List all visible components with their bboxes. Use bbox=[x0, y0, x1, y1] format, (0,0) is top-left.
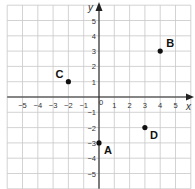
x-tick-label: 4 bbox=[158, 101, 162, 110]
x-tick-label: 5 bbox=[173, 101, 177, 110]
point-label-a: A bbox=[104, 144, 112, 156]
y-tick-label: 4 bbox=[92, 32, 96, 41]
point-d bbox=[142, 125, 147, 130]
y-axis-arrow-icon bbox=[96, 2, 103, 11]
x-axis-label: x bbox=[185, 101, 192, 112]
x-tick-label: −2 bbox=[64, 101, 73, 110]
x-tick-label: 1 bbox=[112, 101, 116, 110]
y-tick-label: −1 bbox=[87, 108, 96, 117]
axes: xy bbox=[7, 2, 194, 189]
y-tick-label: 2 bbox=[92, 62, 96, 71]
y-tick-label: 5 bbox=[92, 17, 96, 26]
y-tick-label: 3 bbox=[92, 47, 96, 56]
coordinate-plane: xy −5−4−3−2−1012345−5−4−3−2−112345 ABCD bbox=[0, 0, 195, 189]
point-c bbox=[66, 79, 71, 84]
x-tick-label: −4 bbox=[34, 101, 43, 110]
x-tick-label: −5 bbox=[18, 101, 27, 110]
y-tick-label: −5 bbox=[87, 170, 96, 179]
point-label-b: B bbox=[166, 37, 174, 49]
x-tick-label: 3 bbox=[143, 101, 147, 110]
y-tick-label: 1 bbox=[92, 78, 96, 87]
y-tick-label: −2 bbox=[87, 124, 96, 133]
x-tick-label: 0 bbox=[99, 98, 103, 107]
y-tick-label: −4 bbox=[87, 154, 96, 163]
y-axis-label: y bbox=[87, 2, 94, 13]
point-b bbox=[158, 49, 163, 54]
x-tick-label: 2 bbox=[128, 101, 132, 110]
point-a bbox=[96, 140, 101, 145]
point-label-c: C bbox=[55, 68, 63, 80]
point-label-d: D bbox=[150, 129, 158, 141]
x-tick-label: −3 bbox=[49, 101, 58, 110]
x-axis-arrow-icon bbox=[186, 94, 194, 101]
y-tick-label: −3 bbox=[87, 139, 96, 148]
